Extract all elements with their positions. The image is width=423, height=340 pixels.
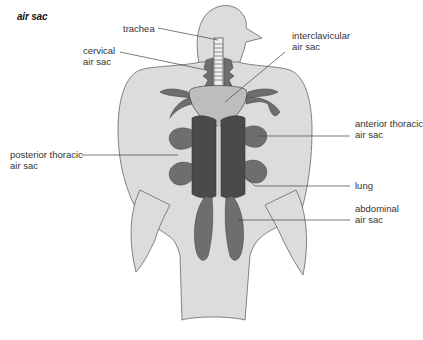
label-abdominal-air-sac: abdominal air sac — [355, 203, 399, 225]
label-trachea: trachea — [123, 23, 155, 34]
label-cervical-air-sac: cervical air sac — [83, 45, 115, 67]
label-posterior-thoracic-air-sac: posterior thoracic air sac — [10, 149, 83, 171]
label-interclavicular-air-sac: interclavicular air sac — [292, 30, 350, 52]
label-anterior-thoracic-air-sac: anterior thoracic air sac — [355, 118, 423, 140]
trachea — [214, 38, 223, 88]
label-lung: lung — [355, 180, 373, 191]
